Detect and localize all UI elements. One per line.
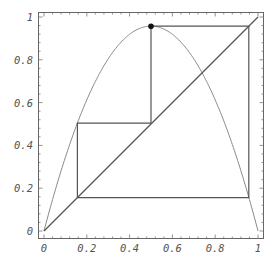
x-axis-tick-labels: 00.20.40.60.81 bbox=[41, 242, 261, 254]
y-tick-label: 1 bbox=[27, 11, 33, 23]
orbit-start-point bbox=[148, 23, 154, 29]
x-tick-label: 0.6 bbox=[163, 242, 182, 254]
x-tick-label: 1 bbox=[255, 242, 261, 254]
y-tick-label: 0 bbox=[27, 225, 33, 237]
x-tick-label: 0.8 bbox=[206, 242, 225, 254]
y-tick-label: 0.8 bbox=[14, 54, 33, 66]
y-tick-label: 0.2 bbox=[14, 182, 33, 194]
x-tick-label: 0.2 bbox=[77, 242, 96, 254]
y-tick-label: 0.6 bbox=[14, 97, 33, 109]
x-tick-label: 0 bbox=[41, 242, 47, 254]
cobweb-plot: 00.20.40.60.81 00.20.40.60.81 bbox=[0, 0, 276, 262]
y-tick-label: 0.4 bbox=[14, 139, 33, 151]
x-tick-label: 0.4 bbox=[120, 242, 139, 254]
y-axis-tick-labels: 00.20.40.60.81 bbox=[14, 11, 33, 237]
